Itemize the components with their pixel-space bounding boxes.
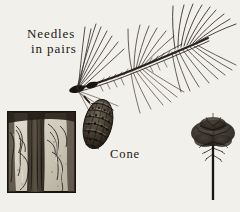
needles-label-line2: in pairs: [27, 41, 77, 56]
botanical-plate: Needles in pairs Cone: [0, 0, 240, 212]
bark-texture-panel: [8, 112, 75, 192]
cone-label: Cone: [110, 147, 140, 162]
needles-label-line1: Needles: [27, 26, 75, 41]
needles-in-pairs-label: Needles in pairs: [27, 26, 77, 57]
